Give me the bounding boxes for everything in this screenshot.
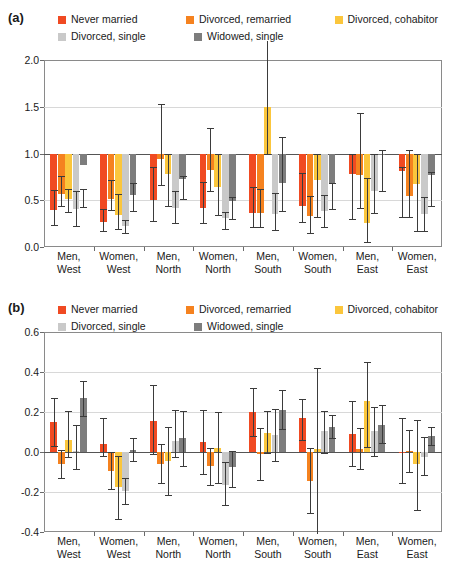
error-bar-cap-upper <box>73 191 80 192</box>
error-bar-cap-upper <box>414 420 421 421</box>
error-bar-cap-upper <box>321 411 328 412</box>
error-bar-whisker <box>324 411 325 453</box>
error-bar-cap-upper <box>222 462 229 463</box>
error-bar-cap-lower <box>299 440 306 441</box>
error-bar-cap-upper <box>406 430 413 431</box>
error-bar-whisker <box>111 452 112 489</box>
x-axis-category-label: Men, West <box>57 535 81 560</box>
y-axis-tick-label: 1.5 <box>7 102 39 112</box>
error-bar-whisker <box>175 410 176 457</box>
error-bar-whisker <box>367 362 368 447</box>
bar <box>179 154 186 179</box>
error-bar-cap-upper <box>257 189 264 190</box>
x-axis-category-label: Men, South <box>254 535 281 560</box>
error-bar-cap-lower <box>158 185 165 186</box>
x-axis-category-label: Women, West <box>99 250 138 275</box>
error-bar-whisker <box>302 399 303 440</box>
error-bar-cap-upper <box>73 425 80 426</box>
error-bar-whisker <box>218 412 219 483</box>
error-bar-cap-lower <box>172 457 179 458</box>
error-bar-cap-upper <box>379 150 386 151</box>
error-bar-cap-upper <box>115 456 122 457</box>
error-bar-cap-upper <box>215 412 222 413</box>
error-bar-cap-upper <box>172 191 179 192</box>
error-bar-cap-upper <box>58 450 65 451</box>
legend-label-never-married: Never married <box>71 14 138 25</box>
gridline <box>44 107 442 108</box>
error-bar-cap-lower <box>299 222 306 223</box>
x-axis-category-label: Men, North <box>156 535 182 560</box>
y-axis-tick-label: 0.0 <box>7 242 39 252</box>
error-bar-whisker <box>360 428 361 469</box>
y-axis-tick-mark <box>40 60 44 61</box>
panel-b-letter: (b) <box>8 300 25 315</box>
error-bar-whisker <box>374 407 375 456</box>
error-bar-cap-upper <box>329 183 336 184</box>
error-bar-cap-lower <box>349 219 356 220</box>
bar <box>222 154 229 219</box>
error-bar-cap-lower <box>207 191 214 192</box>
error-bar-whisker <box>161 444 162 483</box>
error-bar-cap-lower <box>414 231 421 232</box>
error-bar-cap-upper <box>51 190 58 191</box>
error-bar-cap-lower <box>222 229 229 230</box>
error-bar-cap-upper <box>80 381 87 382</box>
error-bar-cap-lower <box>371 213 378 214</box>
legend-item-divorced-remarried: Divorced, remarried <box>186 14 323 25</box>
error-bar-cap-lower <box>264 154 271 155</box>
error-bar-cap-upper <box>180 411 187 412</box>
error-bar-whisker <box>260 428 261 480</box>
error-bar-cap-lower <box>65 457 72 458</box>
error-bar-whisker <box>310 196 311 233</box>
error-bar-cap-upper <box>51 398 58 399</box>
error-bar-cap-lower <box>421 475 428 476</box>
x-axis-category-label: Women, North <box>199 535 238 560</box>
error-bar-cap-lower <box>349 466 356 467</box>
error-bar-whisker <box>402 167 403 217</box>
legend-swatch-never-married <box>58 16 66 24</box>
error-bar-cap-upper <box>130 438 137 439</box>
error-bar-cap-lower <box>307 513 314 514</box>
error-bar-cap-lower <box>371 456 378 457</box>
legend-label-widowed-single: Widowed, single <box>207 31 283 42</box>
error-bar-cap-lower <box>207 485 214 486</box>
error-bar-cap-lower <box>115 229 122 230</box>
error-bar-whisker <box>302 173 303 222</box>
error-bar-cap-lower <box>279 211 286 212</box>
error-bar-cap-lower <box>80 416 87 417</box>
error-bar-whisker <box>232 197 233 219</box>
error-bar-whisker <box>282 137 283 211</box>
error-bar-cap-upper <box>100 418 107 419</box>
x-axis-category-label: Women, South <box>298 535 337 560</box>
error-bar-cap-lower <box>165 495 172 496</box>
legend-row-2: Divorced, single Widowed, single <box>58 28 450 45</box>
error-bar-cap-lower <box>180 199 187 200</box>
error-bar-cap-lower <box>158 483 165 484</box>
error-bar-whisker <box>203 410 204 474</box>
x-axis-category-label: Men, West <box>57 250 81 275</box>
bar <box>122 154 129 227</box>
x-axis-category-label: Women, East <box>398 535 437 560</box>
x-axis-group-separator-tick <box>193 532 194 536</box>
error-bar-whisker <box>253 187 254 227</box>
error-bar-cap-lower <box>122 233 129 234</box>
error-bar-cap-upper <box>399 418 406 419</box>
error-bar-whisker <box>382 405 383 443</box>
error-bar-cap-lower <box>399 217 406 218</box>
error-bar-whisker <box>161 104 162 185</box>
error-bar-cap-lower <box>130 211 137 212</box>
error-bar-cap-upper <box>150 385 157 386</box>
error-bar-whisker <box>402 418 403 483</box>
error-bar-cap-upper <box>314 368 321 369</box>
error-bar-cap-upper <box>172 410 179 411</box>
error-bar-cap-upper <box>200 182 207 183</box>
legend-swatch-widowed-single <box>194 33 202 41</box>
error-bar-cap-lower <box>73 226 80 227</box>
x-axis-group-separator-tick <box>293 247 294 251</box>
legend-swatch-divorced-remarried <box>186 16 194 24</box>
x-axis-group-separator-tick <box>343 247 344 251</box>
error-bar-whisker <box>168 427 169 495</box>
gridline <box>44 372 442 373</box>
x-axis-group-separator-tick <box>94 247 95 251</box>
error-bar-whisker <box>210 128 211 191</box>
